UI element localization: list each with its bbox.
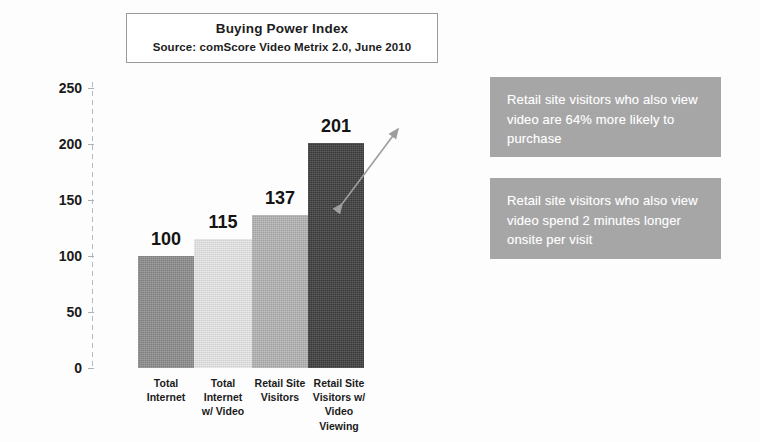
y-tick-mark-0 xyxy=(88,368,94,369)
bar-column-total-internet[interactable]: 100 xyxy=(138,78,194,368)
bar-value-4: 201 xyxy=(321,116,351,137)
bar-rect-4[interactable] xyxy=(308,143,364,368)
bar-rect-2[interactable] xyxy=(194,239,252,368)
y-tick-250: 250 xyxy=(40,80,82,96)
x-label-retail-site-visitors: Retail Site Visitors xyxy=(252,376,308,433)
y-tick-50: 50 xyxy=(40,304,82,320)
x-label-line: Visitors xyxy=(254,390,306,404)
bar-value-3: 137 xyxy=(265,188,295,209)
callout-text: Retail site visitors who also view video… xyxy=(507,191,706,250)
callout-text: Retail site visitors who also view video… xyxy=(507,90,706,149)
y-tick-100: 100 xyxy=(40,248,82,264)
x-label-line: Internet xyxy=(140,390,192,404)
x-label-line: Visitors w/ xyxy=(310,390,368,404)
x-label-line: Total Internet xyxy=(196,376,250,404)
y-tick-mark-250 xyxy=(88,88,94,89)
bar-series: 100 115 137 201 xyxy=(138,78,364,368)
bar-column-retail-site-visitors[interactable]: 137 xyxy=(252,78,308,368)
x-label-line: Retail Site xyxy=(254,376,306,390)
bar-value-2: 115 xyxy=(208,212,237,233)
x-label-line: Total xyxy=(140,376,192,390)
x-label-line: Video Viewing xyxy=(310,404,368,432)
y-tick-0: 0 xyxy=(40,360,82,376)
x-label-retail-site-visitors-w-video-viewing: Retail Site Visitors w/ Video Viewing xyxy=(308,376,370,433)
bar-rect-1[interactable] xyxy=(138,256,194,368)
bar-column-total-internet-w-video[interactable]: 115 xyxy=(194,78,252,368)
bar-rect-3[interactable] xyxy=(252,215,308,368)
x-label-total-internet-w-video: Total Internet w/ Video xyxy=(194,376,252,433)
x-label-line: w/ Video xyxy=(196,404,250,418)
bar-value-1: 100 xyxy=(151,229,181,250)
chart-page: Buying Power Index Source: comScore Vide… xyxy=(0,0,760,442)
y-axis-tick-labels: 250 200 150 100 50 0 xyxy=(30,0,82,442)
bar-column-retail-site-visitors-w-video-viewing[interactable]: 201 xyxy=(308,78,364,368)
x-label-line: Retail Site xyxy=(310,376,368,390)
callout-time-onsite: Retail site visitors who also view video… xyxy=(490,178,721,259)
y-tick-150: 150 xyxy=(40,192,82,208)
y-tick-mark-200 xyxy=(88,144,94,145)
y-tick-mark-100 xyxy=(88,256,94,257)
x-label-total-internet: Total Internet xyxy=(138,376,194,433)
y-tick-mark-150 xyxy=(88,200,94,201)
callout-purchase-lift: Retail site visitors who also view video… xyxy=(490,77,721,157)
y-tick-mark-50 xyxy=(88,312,94,313)
bar-chart-plot: 250 200 150 100 50 0 100 115 137 xyxy=(0,0,460,442)
y-axis-line xyxy=(92,82,93,370)
y-tick-200: 200 xyxy=(40,136,82,152)
x-axis-category-labels: Total Internet Total Internet w/ Video R… xyxy=(138,376,370,433)
